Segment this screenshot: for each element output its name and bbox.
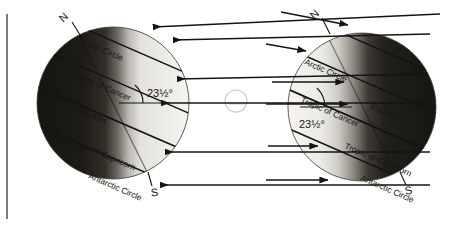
left-south-pointer bbox=[148, 172, 152, 186]
left-globe bbox=[22, 5, 202, 233]
left-south-label: S bbox=[150, 186, 159, 199]
ray-left-1 bbox=[153, 14, 440, 27]
sun-circle bbox=[225, 90, 247, 112]
diagram-canvas: N S Arctic Circle Tropic of Cancer Equat… bbox=[0, 0, 452, 243]
left-tilt-angle-label: 23½° bbox=[147, 87, 173, 99]
solstice-diagram: N S Arctic Circle Tropic of Cancer Equat… bbox=[0, 0, 452, 243]
left-north-label: N bbox=[56, 10, 70, 24]
sun-circle-outline bbox=[225, 90, 247, 112]
ray-right-2 bbox=[266, 44, 306, 51]
left-north-pointer bbox=[72, 22, 82, 38]
right-tilt-angle-label: 23½° bbox=[299, 118, 325, 130]
